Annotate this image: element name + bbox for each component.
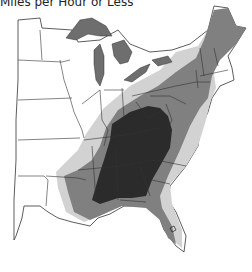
eastern-us-map [0,0,252,272]
map-figure: Miles per Hour or Less [0,0,252,272]
lake-superior [66,18,112,40]
